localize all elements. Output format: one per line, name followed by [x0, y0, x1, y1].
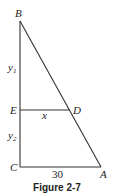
- triangle-diagram: B E D C A y1 y2 x 30: [0, 0, 114, 196]
- vertex-label-C: C: [10, 161, 18, 173]
- vertex-label-D: D: [72, 104, 81, 116]
- figure-caption: Figure 2-7: [0, 182, 114, 193]
- similar-triangles-figure: B E D C A y1 y2 x 30 Figure 2-7: [0, 0, 114, 196]
- segment-label-x: x: [41, 109, 47, 121]
- vertex-label-A: A: [99, 168, 107, 180]
- segment-BA: [20, 21, 101, 167]
- segment-label-CA: 30: [52, 168, 64, 180]
- vertex-label-B: B: [15, 7, 22, 19]
- segment-label-y1: y1: [7, 61, 16, 75]
- vertex-label-E: E: [9, 104, 17, 116]
- segment-label-y2: y2: [7, 129, 17, 143]
